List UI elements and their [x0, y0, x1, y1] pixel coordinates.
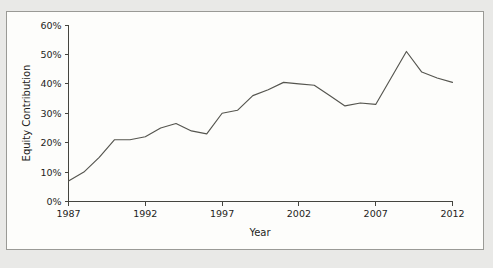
- x-axis-title: Year: [248, 227, 271, 238]
- x-tick-label: 2007: [364, 208, 388, 219]
- x-tick-label: 1997: [210, 208, 234, 219]
- x-axis-ticks: [69, 202, 453, 206]
- y-axis-tick-labels: 0%10%20%30%40%50%60%: [40, 20, 61, 208]
- y-tick-label: 40%: [40, 78, 61, 89]
- y-tick-label: 20%: [40, 137, 61, 148]
- y-tick-label: 50%: [40, 49, 61, 60]
- line-chart: 0%10%20%30%40%50%60% 1987199219972002200…: [0, 0, 493, 268]
- y-axis-ticks: [65, 25, 69, 202]
- data-series-line: [69, 51, 453, 180]
- x-tick-label: 1987: [56, 208, 80, 219]
- x-axis-tick-labels: 198719921997200220072012: [56, 208, 464, 219]
- x-tick-label: 2002: [287, 208, 311, 219]
- y-tick-label: 60%: [40, 20, 61, 31]
- y-axis-title: Equity Contribution: [21, 65, 32, 162]
- y-tick-label: 10%: [40, 167, 61, 178]
- chart-page: 0%10%20%30%40%50%60% 1987199219972002200…: [0, 0, 493, 268]
- y-tick-label: 0%: [46, 196, 61, 207]
- axes: [65, 25, 453, 206]
- x-tick-label: 1992: [133, 208, 157, 219]
- x-tick-label: 2012: [440, 208, 464, 219]
- y-tick-label: 30%: [40, 108, 61, 119]
